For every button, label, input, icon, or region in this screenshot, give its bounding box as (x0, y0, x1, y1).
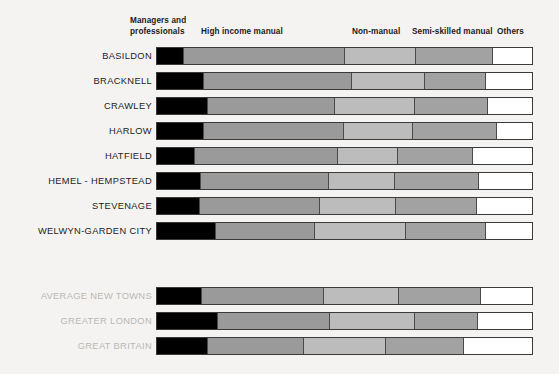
segment-others (480, 288, 532, 304)
row-label-average-new-towns: AVERAGE NEW TOWNS (0, 287, 152, 305)
segment-managers-and-professionals (157, 148, 194, 164)
segment-semi-skilled-manual (394, 173, 478, 189)
segment-managers-and-professionals (157, 223, 215, 239)
segment-managers-and-professionals (157, 98, 207, 114)
legend-label-high-income-manual: High income manual (201, 27, 283, 38)
segment-semi-skilled-manual (415, 48, 493, 64)
segment-high-income-manual (201, 288, 323, 304)
segment-high-income-manual (207, 338, 303, 354)
segment-others (485, 73, 532, 89)
segment-non-manual (314, 223, 404, 239)
segment-managers-and-professionals (157, 173, 200, 189)
bar-row (156, 147, 533, 165)
segment-semi-skilled-manual (405, 223, 486, 239)
bar-row (156, 337, 533, 355)
row-label-great-britain: GREAT BRITAIN (0, 337, 152, 355)
segment-non-manual (334, 98, 414, 114)
segment-high-income-manual (215, 223, 314, 239)
segment-non-manual (343, 123, 412, 139)
segment-high-income-manual (183, 48, 344, 64)
row-label-hatfield: HATFIELD (0, 147, 152, 165)
segment-high-income-manual (203, 73, 351, 89)
segment-high-income-manual (194, 148, 337, 164)
bar-row (156, 47, 533, 65)
row-label-welwyn-garden-city: WELWYN-GARDEN CITY (0, 222, 152, 240)
row-label-crawley: CRAWLEY (0, 97, 152, 115)
segment-high-income-manual (203, 123, 343, 139)
segment-high-income-manual (207, 98, 335, 114)
segment-semi-skilled-manual (414, 98, 488, 114)
segment-others (463, 338, 532, 354)
bar-row (156, 72, 533, 90)
segment-semi-skilled-manual (424, 73, 486, 89)
row-label-basildon: BASILDON (0, 47, 152, 65)
segment-non-manual (319, 198, 396, 214)
segment-managers-and-professionals (157, 198, 199, 214)
segment-others (478, 173, 532, 189)
segment-others (485, 223, 532, 239)
segment-non-manual (329, 313, 413, 329)
segment-others (496, 123, 532, 139)
segment-semi-skilled-manual (414, 313, 478, 329)
bar-row (156, 222, 533, 240)
segment-non-manual (328, 173, 394, 189)
legend-label-semi-skilled-manual: Semi-skilled manual (412, 27, 493, 38)
segment-non-manual (351, 73, 424, 89)
bar-row (156, 172, 533, 190)
segment-others (492, 48, 532, 64)
segment-semi-skilled-manual (397, 148, 473, 164)
segment-others (487, 98, 532, 114)
row-label-hemel-hempstead: HEMEL - HEMPSTEAD (0, 172, 152, 190)
segment-high-income-manual (200, 173, 329, 189)
segment-managers-and-professionals (157, 313, 217, 329)
segment-semi-skilled-manual (385, 338, 463, 354)
bar-row (156, 122, 533, 140)
segment-managers-and-professionals (157, 73, 203, 89)
segment-others (472, 148, 532, 164)
bar-row (156, 312, 533, 330)
segment-high-income-manual (199, 198, 319, 214)
row-label-greater-london: GREATER LONDON (0, 312, 152, 330)
row-label-harlow: HARLOW (0, 122, 152, 140)
legend-label-managers-and-professionals: Managers and professionals (130, 16, 200, 37)
legend-label-non-manual: Non-manual (352, 27, 400, 38)
bar-row (156, 97, 533, 115)
row-label-bracknell: BRACKNELL (0, 72, 152, 90)
segment-others (476, 198, 532, 214)
segment-non-manual (323, 288, 398, 304)
segment-non-manual (344, 48, 414, 64)
stacked-bar-chart: Managers and professionals High income m… (0, 0, 559, 374)
bar-row (156, 197, 533, 215)
bar-row (156, 287, 533, 305)
segment-managers-and-professionals (157, 338, 207, 354)
segment-managers-and-professionals (157, 123, 203, 139)
segment-non-manual (337, 148, 397, 164)
segment-semi-skilled-manual (395, 198, 476, 214)
segment-semi-skilled-manual (398, 288, 481, 304)
segment-managers-and-professionals (157, 48, 183, 64)
row-label-stevenage: STEVENAGE (0, 197, 152, 215)
segment-managers-and-professionals (157, 288, 201, 304)
segment-high-income-manual (217, 313, 330, 329)
legend-label-others: Others (497, 27, 524, 38)
segment-others (477, 313, 532, 329)
segment-semi-skilled-manual (412, 123, 496, 139)
segment-non-manual (303, 338, 386, 354)
